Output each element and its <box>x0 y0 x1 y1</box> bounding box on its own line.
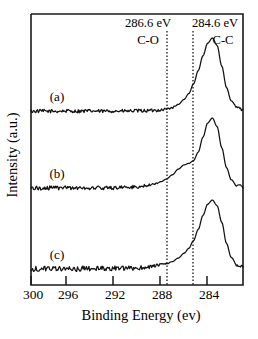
x-tick-label-0: 300 <box>23 287 44 302</box>
x-tick-label-3: 288 <box>152 287 173 302</box>
x-axis-title: Binding Energy (ev) <box>82 307 201 324</box>
curve-label-c: (c) <box>50 247 64 262</box>
annotations: 286.6 eV C-O 284.6 eV C-C <box>125 16 238 47</box>
x-tick-marks <box>31 276 207 285</box>
curve-label-a: (a) <box>50 89 64 104</box>
c-c-energy-label: 284.6 eV <box>192 16 238 30</box>
curve-label-b: (b) <box>49 166 64 181</box>
x-tick-labels: 300 296 292 288 284 <box>23 287 220 302</box>
xps-spectrum-figure: 300 296 292 288 284 Binding Energy (ev) … <box>0 0 258 339</box>
y-axis-title: Intensity (a.u.) <box>4 112 21 197</box>
spectrum-curves <box>31 38 243 271</box>
c-o-energy-label: 286.6 eV <box>125 16 171 30</box>
chart-canvas: 300 296 292 288 284 Binding Energy (ev) … <box>0 0 258 339</box>
x-tick-label-2: 292 <box>105 287 125 302</box>
guide-lines <box>167 31 193 285</box>
plot-frame <box>31 14 243 285</box>
c-o-bond-label: C-O <box>137 33 159 47</box>
axes-rectangle <box>31 14 243 285</box>
curve-labels: (a) (b) (c) <box>49 89 64 262</box>
x-tick-label-1: 296 <box>58 287 79 302</box>
x-tick-label-4: 284 <box>199 287 220 302</box>
